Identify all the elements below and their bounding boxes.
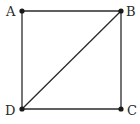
vertex-b-point	[118, 8, 123, 13]
vertex-a-label: A	[5, 4, 16, 19]
diagonal-db	[22, 11, 121, 109]
square-diagram: A B C D	[0, 0, 140, 124]
vertex-c-label: C	[127, 103, 137, 118]
vertex-b-label: B	[126, 4, 136, 19]
vertex-d-point	[19, 106, 24, 111]
vertex-a-point	[19, 8, 24, 13]
vertex-c-point	[118, 106, 123, 111]
vertex-d-label: D	[5, 103, 15, 118]
